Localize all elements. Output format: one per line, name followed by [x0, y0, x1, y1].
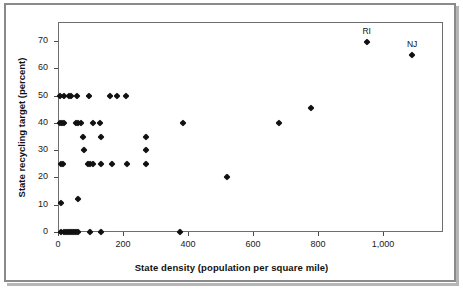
- figure-border-shadow-bottom: [7, 283, 459, 286]
- data-point-label-nj: NJ: [407, 39, 417, 49]
- x-axis-tick-label: 800: [298, 239, 338, 249]
- y-axis-tick: [54, 150, 58, 151]
- figure-scatter-plot: 01020304050607002004006008001,000 RINJ S…: [0, 0, 463, 290]
- x-axis-tick: [188, 232, 189, 236]
- x-axis-tick-label: 1,000: [363, 239, 403, 249]
- y-axis-tick: [54, 205, 58, 206]
- x-axis-tick-label: 0: [38, 239, 78, 249]
- y-axis-tick-label: 50: [26, 90, 48, 100]
- x-axis-tick: [253, 232, 254, 236]
- y-axis-tick-label: 20: [26, 171, 48, 181]
- y-axis-title: State recycling target (percent): [16, 23, 27, 233]
- y-axis-tick-label: 30: [26, 144, 48, 154]
- y-axis-tick-label: 60: [26, 62, 48, 72]
- x-axis-title: State density (population per square mil…: [0, 262, 463, 273]
- y-axis-tick: [54, 177, 58, 178]
- x-axis-tick-label: 600: [233, 239, 273, 249]
- y-axis-tick-label: 0: [26, 226, 48, 236]
- figure-border-shadow-right: [456, 6, 459, 286]
- x-axis-tick-label: 400: [168, 239, 208, 249]
- x-axis-tick: [123, 232, 124, 236]
- y-axis-tick: [54, 68, 58, 69]
- x-axis-tick: [318, 232, 319, 236]
- x-axis-tick-label: 200: [103, 239, 143, 249]
- y-axis-tick-label: 40: [26, 117, 48, 127]
- x-axis-tick: [383, 232, 384, 236]
- plot-area-frame: [58, 22, 443, 232]
- data-point-label-ri: RI: [362, 26, 371, 36]
- y-axis-tick-label: 10: [26, 199, 48, 209]
- y-axis-tick: [54, 41, 58, 42]
- y-axis-tick-label: 70: [26, 35, 48, 45]
